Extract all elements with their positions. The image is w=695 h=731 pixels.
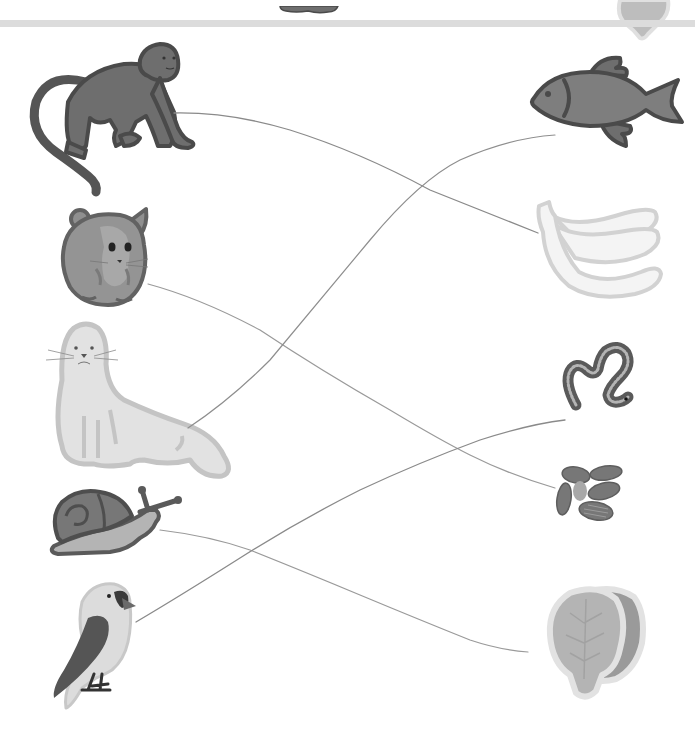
animal-monkey[interactable] [28, 42, 198, 194]
bird-icon [52, 578, 144, 710]
cropped-animal-icon [278, 6, 340, 14]
worm-icon [560, 343, 634, 413]
food-worm[interactable] [560, 343, 634, 413]
banana-icon [535, 202, 670, 298]
line-monkey-to-banana [174, 113, 538, 233]
fish-icon [530, 52, 688, 154]
matching-worksheet [0, 0, 695, 731]
food-banana[interactable] [535, 202, 670, 298]
seeds-icon [554, 463, 626, 523]
seal-icon [44, 320, 240, 484]
section-divider [0, 20, 695, 27]
food-seeds[interactable] [554, 463, 626, 523]
line-seal-to-fish [188, 135, 555, 428]
prev-animal-fragment [278, 0, 340, 8]
animal-seal[interactable] [44, 320, 240, 484]
animal-bird[interactable] [52, 578, 144, 710]
line-snail-to-lettuce [160, 530, 528, 652]
animal-hamster[interactable] [60, 205, 156, 309]
food-lettuce[interactable] [546, 583, 650, 701]
snail-icon [48, 486, 182, 558]
food-fish[interactable] [530, 52, 688, 154]
animal-snail[interactable] [48, 486, 182, 558]
hamster-icon [60, 205, 156, 309]
monkey-icon [28, 42, 198, 194]
lettuce-icon [546, 583, 650, 701]
